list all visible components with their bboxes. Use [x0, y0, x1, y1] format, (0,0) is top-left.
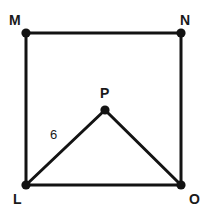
- vertex-dot-o: [176, 180, 185, 189]
- edge-lp: [26, 110, 105, 185]
- vertex-dot-m: [21, 28, 30, 37]
- edge-po: [105, 110, 181, 185]
- segment-length-label-lp: 6: [50, 128, 57, 141]
- vertex-label-m: M: [9, 13, 21, 27]
- vertex-dot-p: [100, 105, 109, 114]
- vertex-label-n: N: [180, 13, 190, 27]
- vertex-dot-n: [176, 28, 185, 37]
- vertex-dot-l: [21, 180, 30, 189]
- vertex-label-o: O: [189, 192, 200, 206]
- geometry-figure: M N P L O 6: [0, 0, 204, 213]
- figure-canvas: [0, 0, 204, 213]
- vertex-label-p: P: [100, 86, 110, 100]
- vertex-label-l: L: [13, 192, 22, 206]
